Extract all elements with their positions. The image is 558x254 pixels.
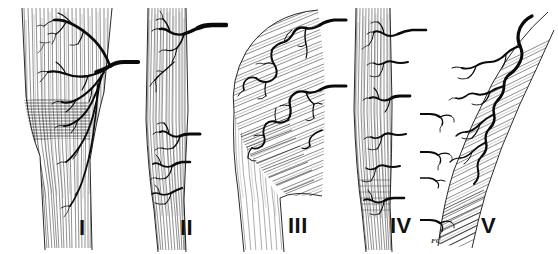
muscle-hatching (218, 0, 348, 254)
panel-label-5: V (481, 215, 496, 237)
anatomical-figure-plate: I (0, 0, 558, 254)
panel-3-drawing (218, 0, 348, 254)
dominant-vessel (449, 16, 532, 184)
figure-panel-3 (218, 0, 348, 254)
figure-panel-4 (348, 0, 428, 254)
muscle-outline (354, 8, 392, 252)
tendon-fibres (236, 110, 283, 252)
artist-signature: FC (431, 237, 440, 245)
panel-1-drawing (0, 0, 140, 254)
panel-label-4: IV (390, 215, 412, 237)
panel-4-drawing (348, 0, 428, 254)
figure-panel-1 (0, 0, 140, 254)
segmental-vessels (420, 114, 454, 238)
panel-label-2: II (180, 217, 193, 239)
panel-label-3: III (288, 215, 308, 237)
muscle-striations (355, 8, 392, 252)
panel-label-1: I (79, 217, 86, 239)
